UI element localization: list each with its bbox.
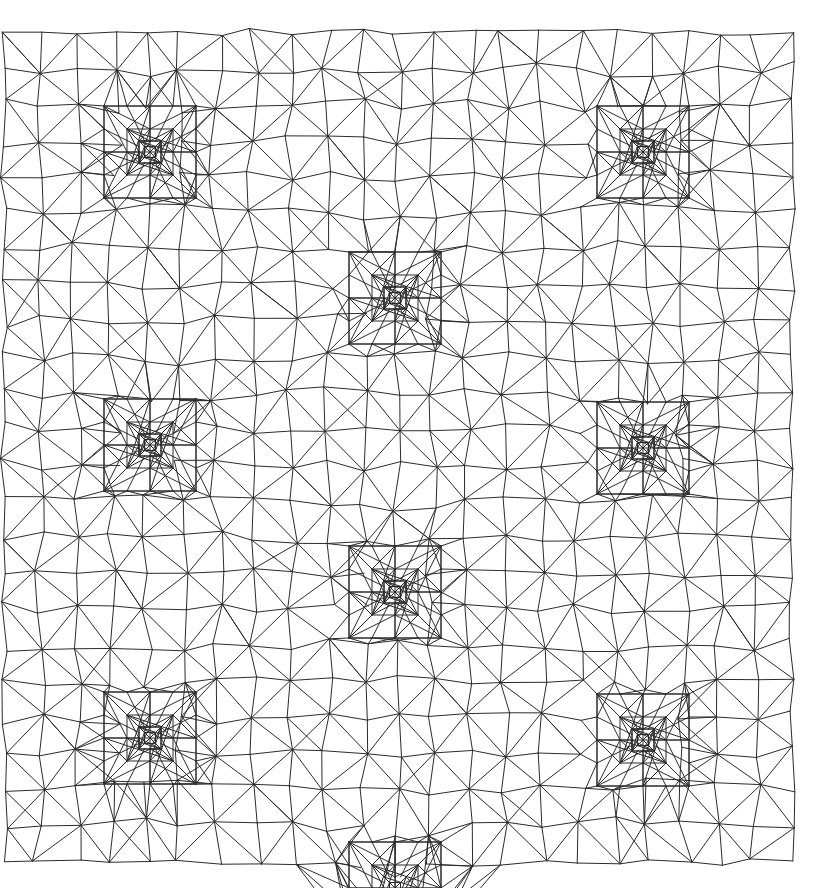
- mesh-figure: [0, 0, 820, 888]
- triangular-mesh-canvas: [0, 0, 820, 888]
